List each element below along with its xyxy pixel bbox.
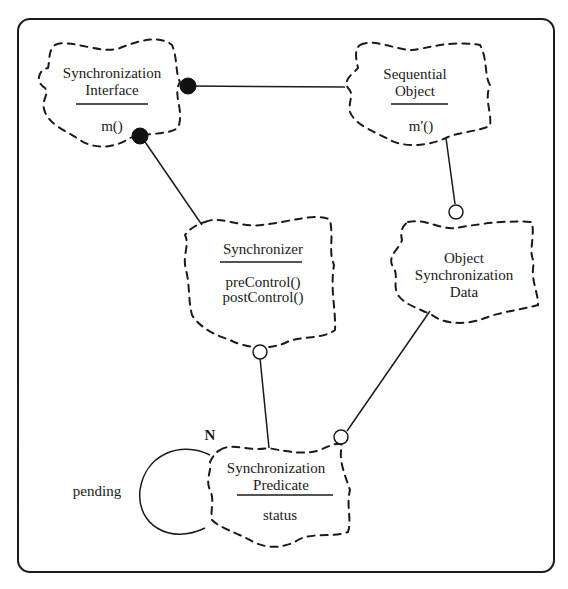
link-interface-to-sequential <box>188 86 345 87</box>
filled-circle-interface-bottom <box>132 128 148 144</box>
self-association-pending <box>140 449 210 534</box>
class-synchronizer: Synchronizer preControl() postControl() <box>220 241 303 306</box>
role-label-pending: pending <box>73 483 122 499</box>
class-synchronization-predicate: Synchronization Predicate status <box>227 460 333 523</box>
filled-circle-interface-right <box>180 78 196 94</box>
class-name-line-1: Synchronization <box>227 460 326 476</box>
class-object-synchronization-data: Object Synchronization Data <box>415 250 514 300</box>
operation-m: m() <box>101 118 123 135</box>
class-name: Synchronizer <box>223 241 303 257</box>
class-name-line-2: Synchronization <box>415 267 514 283</box>
link-sequential-to-objsyncdata <box>446 138 455 204</box>
operation-m-prime: m'() <box>409 118 433 135</box>
class-name-line-1: Synchronization <box>63 65 162 81</box>
class-name-line-2: Predicate <box>253 477 309 493</box>
link-synchronizer-to-predicate <box>260 358 269 448</box>
class-name-line-2: Object <box>395 83 436 99</box>
class-name-line-1: Sequential <box>383 66 446 82</box>
class-synchronization-interface: Synchronization Interface m() <box>63 65 162 135</box>
open-circle-objsyncdata-top <box>449 205 463 219</box>
class-name-line-3: Data <box>450 284 479 300</box>
class-name-line-1: Object <box>444 250 485 266</box>
class-sequential-object: Sequential Object m'() <box>383 66 448 135</box>
operation-postcontrol: postControl() <box>223 289 304 306</box>
open-circle-predicate-top <box>334 430 348 444</box>
cardinality-label-n: N <box>205 427 216 443</box>
class-name-line-2: Interface <box>85 82 139 98</box>
open-circle-synchronizer-bottom <box>253 345 267 359</box>
attribute-status: status <box>263 507 297 523</box>
class-diagram: Synchronization Interface m() Sequential… <box>0 0 568 589</box>
link-objsyncdata-to-predicate <box>347 311 430 431</box>
link-interface-to-synchronizer <box>141 136 202 225</box>
